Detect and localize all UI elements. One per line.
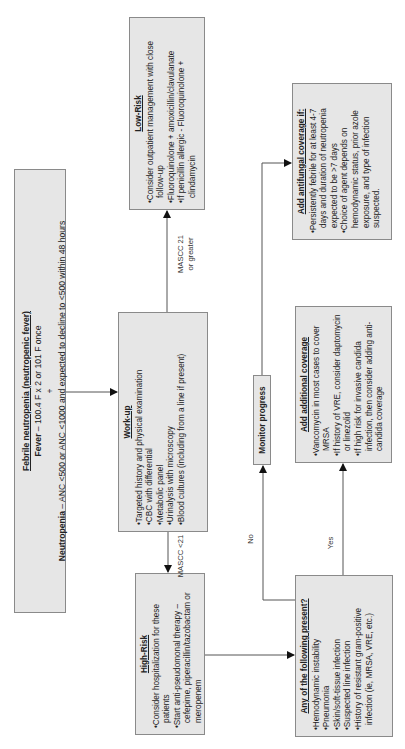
list-item: Consider outpatient management with clos… bbox=[146, 24, 167, 203]
list-item: Urinalysis with microscopy bbox=[166, 319, 177, 525]
any-present-list: Hemodynamic instability Pneumonia Skin/s… bbox=[312, 582, 376, 730]
list-item: Blood cultures (including from a line if… bbox=[177, 319, 188, 525]
list-item: Fluoroquinolone + amoxicillin/clavulanat… bbox=[167, 24, 178, 203]
title-heading: Febrile neutropenia (neutropenic fever) bbox=[20, 176, 32, 606]
add-coverage-list: Vancomycin in most cases to cover MRSA I… bbox=[312, 313, 386, 456]
list-item: Hemodynamic instability bbox=[312, 582, 323, 730]
low-risk-box: Low-Risk Consider outpatient management … bbox=[129, 17, 205, 210]
list-item: If penicillin allergic - Fluoroquinolone… bbox=[177, 24, 198, 203]
list-item: Consider hospitalization for these patie… bbox=[152, 580, 173, 728]
edge-label-mascc-high: MASCC <21 bbox=[176, 531, 186, 581]
monitor-progress-box: Monitor progress bbox=[253, 375, 271, 465]
flowchart-canvas: Febrile neutropenia (neutropenic fever) … bbox=[0, 0, 405, 749]
fever-criteria: Fever – 100.4 F x 2 or 101 F once bbox=[32, 176, 44, 606]
any-present-box: Any of the following present? Hemodynami… bbox=[295, 575, 393, 737]
workup-list: Targeted history and physical examinatio… bbox=[135, 319, 188, 525]
workup-heading: Work-up bbox=[123, 319, 134, 525]
edge-label-yes: Yes bbox=[326, 531, 336, 555]
list-item: Pneumonia bbox=[322, 582, 333, 730]
list-item: CBC with differential bbox=[145, 319, 156, 525]
neutropenia-criteria: Neutropenia – ANC <500 or ANC <1000 and … bbox=[56, 176, 68, 606]
arrow-no-to-monitor bbox=[263, 466, 295, 600]
list-item: If high risk for invasive candida infect… bbox=[354, 313, 386, 456]
antifungal-list: Persistently febrile for at least 4-7 da… bbox=[309, 90, 383, 233]
list-item: Choice of agent depends on hemodynamic s… bbox=[340, 90, 382, 233]
low-risk-heading: Low-Risk bbox=[134, 24, 145, 203]
high-risk-list: Consider hospitalization for these patie… bbox=[152, 580, 205, 728]
workup-box: Work-up Targeted history and physical ex… bbox=[118, 312, 208, 532]
arrow-monitor-to-antifungal bbox=[262, 163, 291, 375]
edge-label-no: No bbox=[246, 529, 256, 549]
list-item: History of resistant gram-positive infec… bbox=[354, 582, 375, 730]
list-item: Metabolic panel bbox=[156, 319, 167, 525]
low-risk-list: Consider outpatient management with clos… bbox=[146, 24, 199, 203]
high-risk-heading: High-Risk bbox=[140, 580, 151, 728]
list-item: Skin/soft-tissue infection bbox=[333, 582, 344, 730]
list-item: Suspected line infection bbox=[343, 582, 354, 730]
edge-label-mascc-low: MASCC 21 or greater bbox=[176, 229, 195, 279]
list-item: Targeted history and physical examinatio… bbox=[135, 319, 146, 525]
antifungal-box: Add antifungal coverage if: Persistently… bbox=[292, 83, 392, 240]
list-item: If history of VRE, consider daptomycin o… bbox=[333, 313, 354, 456]
title-box: Febrile neutropenia (neutropenic fever) … bbox=[14, 169, 66, 613]
plus-sign: + bbox=[44, 176, 56, 606]
add-coverage-box: Add additional coverage Vancomycin in mo… bbox=[295, 306, 392, 463]
list-item: Start anti-pseudomonal therapy – cefepim… bbox=[173, 580, 205, 728]
list-item: Vancomycin in most cases to cover MRSA bbox=[312, 313, 333, 456]
any-present-heading: Any of the following present? bbox=[300, 582, 311, 730]
high-risk-box: High-Risk Consider hospitalization for t… bbox=[135, 573, 205, 735]
list-item: Persistently febrile for at least 4-7 da… bbox=[309, 90, 341, 233]
antifungal-heading: Add antifungal coverage if: bbox=[297, 90, 308, 233]
add-coverage-heading: Add additional coverage bbox=[300, 313, 311, 456]
